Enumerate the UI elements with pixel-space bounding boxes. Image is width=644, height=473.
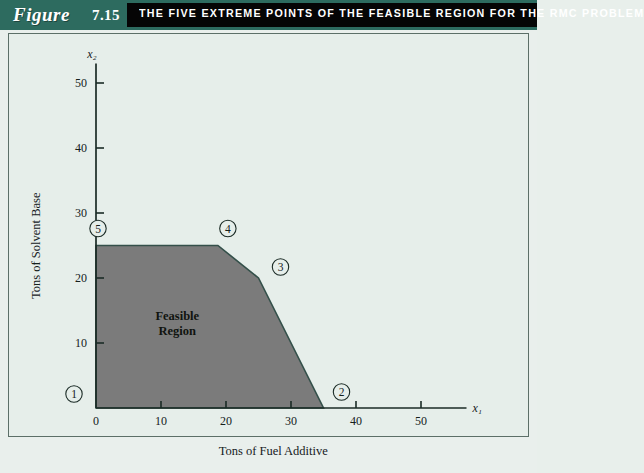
feasible-region-polygon	[96, 246, 324, 409]
x-axis-tick-label: 0	[93, 414, 99, 428]
extreme-point-number: 2	[339, 386, 345, 398]
x-axis-tick-label: 40	[350, 414, 362, 428]
y-axis-tick-label: 40	[75, 141, 87, 155]
y-axis-title: Tons of Solvent Base	[29, 192, 43, 299]
extreme-point-marker-3: 3	[272, 259, 288, 275]
x-axis-variable-label: x₁	[472, 401, 483, 415]
x-axis-title: Tons of Fuel Additive	[219, 444, 329, 458]
extreme-point-number: 5	[95, 223, 101, 235]
y-axis-variable-label: x₂	[86, 47, 97, 61]
x-axis-tick-label: 50	[415, 414, 427, 428]
x-axis-tick-label: 20	[220, 414, 232, 428]
extreme-point-number: 4	[225, 223, 231, 235]
y-axis-tick-label: 50	[75, 76, 87, 90]
y-axis-tick-label: 20	[75, 271, 87, 285]
feasible-region-label-line2: Region	[159, 324, 197, 338]
y-axis-tick-label: 30	[75, 206, 87, 220]
x-axis-tick-label: 30	[285, 414, 297, 428]
x-axis-tick-label: 10	[155, 414, 167, 428]
extreme-point-marker-1: 1	[66, 386, 82, 402]
extreme-point-marker-2: 2	[333, 384, 349, 400]
extreme-point-number: 1	[71, 388, 77, 400]
feasible-region-label-line1: Feasible	[155, 309, 199, 323]
extreme-point-marker-4: 4	[220, 220, 236, 236]
extreme-point-number: 3	[278, 261, 284, 273]
extreme-point-marker-5: 5	[90, 220, 106, 236]
y-axis-tick-label: 10	[75, 336, 87, 350]
